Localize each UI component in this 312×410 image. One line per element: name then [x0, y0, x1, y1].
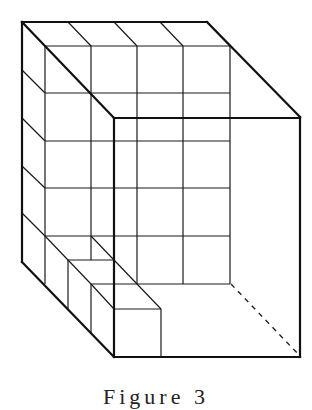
box-outline: [22, 22, 300, 357]
figure-caption: Figure 3: [0, 384, 312, 410]
top-rim-divisions: [68, 22, 230, 46]
back-wall-grid: [45, 46, 230, 284]
hidden-edge: [231, 284, 300, 356]
unit-cubes: [45, 236, 161, 357]
left-wall-grid: [22, 70, 45, 236]
